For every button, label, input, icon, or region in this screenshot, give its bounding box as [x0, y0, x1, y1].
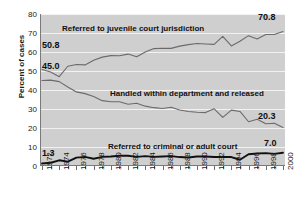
x-tick-mark: [214, 166, 215, 170]
x-tick-mark: [111, 166, 112, 170]
x-tick-label: 1998: [269, 152, 278, 170]
x-tick-label: 1980: [114, 152, 123, 170]
x-tick-mark: [59, 166, 60, 170]
series-label-juvenile-court: Referred to juvenile court jurisdiction: [62, 24, 204, 33]
x-tick-label: 1978: [97, 152, 106, 170]
x-tick-mark: [283, 166, 284, 170]
x-tick-label: 1988: [183, 152, 192, 170]
x-tick-mark: [145, 166, 146, 170]
value-label-start-juvenile: 50.8: [42, 40, 60, 50]
value-label-end-criminal: 7.0: [264, 138, 277, 148]
x-tick-mark: [42, 166, 43, 170]
x-tick-mark: [76, 166, 77, 170]
x-tick-label: 1990: [200, 152, 209, 170]
x-tick-label: 1982: [131, 152, 140, 170]
x-tick-label: 1994: [234, 152, 243, 170]
x-tick-mark: [249, 166, 250, 170]
value-label-end-juvenile: 70.8: [258, 12, 276, 22]
x-tick-mark: [163, 166, 164, 170]
value-label-start-handled: 45.0: [42, 61, 60, 71]
x-tick-label: 2000: [286, 152, 295, 170]
x-tick-mark: [94, 166, 95, 170]
x-tick-label: 1996: [252, 152, 261, 170]
x-tick-label: 1992: [217, 152, 226, 170]
x-tick-mark: [231, 166, 232, 170]
series-label-handled-within-department: Handled within department and released: [110, 89, 264, 98]
x-tick-label: 1984: [148, 152, 157, 170]
x-tick-mark: [266, 166, 267, 170]
value-label-start-criminal: 1.3: [42, 148, 55, 158]
x-tick-label: 1976: [79, 152, 88, 170]
x-tick-mark: [128, 166, 129, 170]
x-tick-mark: [197, 166, 198, 170]
x-tick-label: 1986: [166, 152, 175, 170]
series-label-criminal-adult-court: Referred to criminal or adult court: [108, 142, 237, 151]
x-tick-label: 1974: [62, 152, 71, 170]
value-label-end-handled: 20.3: [258, 111, 276, 121]
chart-figure: Percent of cases 01020304050607080 19721…: [0, 0, 305, 206]
x-tick-mark: [180, 166, 181, 170]
